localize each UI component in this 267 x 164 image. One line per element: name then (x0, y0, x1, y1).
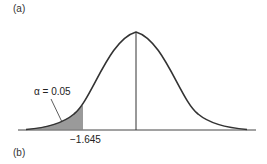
panel-label-b: (b) (13, 147, 25, 158)
alpha-label: α = 0.05 (34, 86, 71, 97)
normal-distribution-chart: α = 0.05 −1.645 (0, 0, 267, 164)
critical-value-label: −1.645 (70, 134, 101, 145)
rejection-region-shade (26, 105, 83, 130)
alpha-pointer (51, 99, 62, 122)
